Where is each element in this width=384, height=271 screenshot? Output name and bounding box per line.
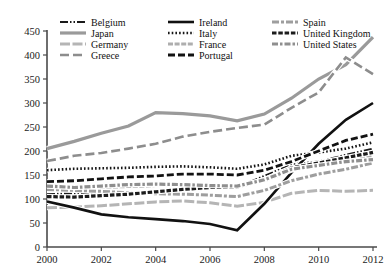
legend-label: Ireland xyxy=(199,17,227,28)
y-tick-label: 250 xyxy=(24,122,40,133)
x-tick-label: 2008 xyxy=(254,254,275,265)
legend-label: Belgium xyxy=(91,17,126,28)
legend-item-spain[interactable]: Spain xyxy=(272,17,326,28)
legend-item-japan[interactable]: Japan xyxy=(60,28,114,39)
legend-item-belgium[interactable]: Belgium xyxy=(60,17,126,28)
y-tick-label: 50 xyxy=(30,218,41,229)
series-line-greece xyxy=(47,57,373,161)
y-tick-label: 150 xyxy=(24,170,40,181)
legend-item-france[interactable]: France xyxy=(168,39,227,50)
y-tick-label: 350 xyxy=(24,74,40,85)
legend-label: Italy xyxy=(199,28,217,39)
legend-item-ireland[interactable]: Ireland xyxy=(168,17,227,28)
legend-item-germany[interactable]: Germany xyxy=(60,39,128,50)
x-tick-label: 2012 xyxy=(363,254,384,265)
x-tick-label: 2004 xyxy=(145,254,167,265)
y-tick-label: 100 xyxy=(24,194,40,205)
y-tick-label: 0 xyxy=(35,242,40,253)
line-chart: 0501001502002503003504004502000200220042… xyxy=(0,0,384,271)
series-halo-greece xyxy=(47,57,373,161)
y-tick-label: 300 xyxy=(24,98,40,109)
x-tick-label: 2000 xyxy=(37,254,58,265)
legend-label: Greece xyxy=(91,50,120,61)
x-tick-label: 2002 xyxy=(91,254,112,265)
y-tick-label: 450 xyxy=(24,26,40,37)
legend-label: United Kingdom xyxy=(303,28,371,39)
legend-label: Japan xyxy=(91,28,114,39)
x-tick-label: 2006 xyxy=(200,254,221,265)
y-tick-label: 400 xyxy=(24,50,40,61)
legend-label: France xyxy=(199,39,227,50)
chart-canvas: 0501001502002503003504004502000200220042… xyxy=(0,0,384,271)
legend-item-portugal[interactable]: Portugal xyxy=(168,50,233,61)
legend-label: United States xyxy=(303,39,357,50)
legend-item-united-states[interactable]: United States xyxy=(272,39,357,50)
x-tick-label: 2010 xyxy=(308,254,329,265)
legend-item-italy[interactable]: Italy xyxy=(168,28,217,39)
legend-label: Germany xyxy=(91,39,128,50)
legend-item-united-kingdom[interactable]: United Kingdom xyxy=(272,28,371,39)
legend-label: Spain xyxy=(303,17,326,28)
legend-label: Portugal xyxy=(199,50,233,61)
legend-item-greece[interactable]: Greece xyxy=(60,50,120,61)
y-tick-label: 200 xyxy=(24,146,40,157)
